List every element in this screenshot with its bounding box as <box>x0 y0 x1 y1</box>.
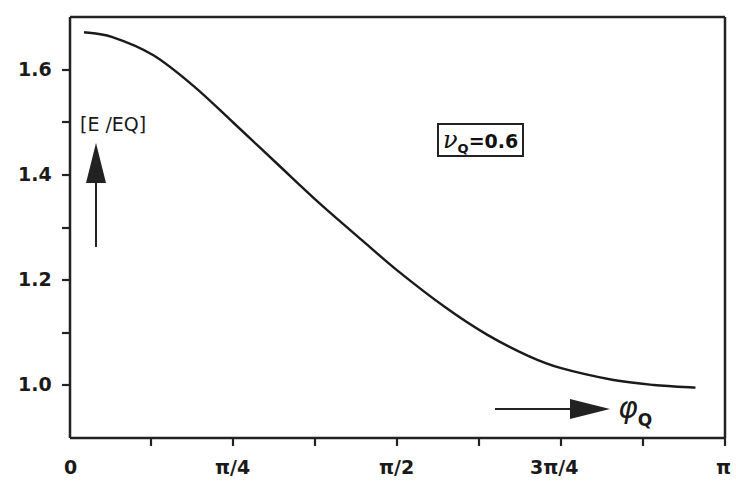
y-axis-label: [E /EQ] <box>80 113 146 135</box>
x-tick-label-pi: π <box>716 456 731 478</box>
y-tick-label-1.2: 1.2 <box>18 268 52 290</box>
x-tick-label-pi-4: π/4 <box>215 456 250 478</box>
parameter-annotation: νQ=0.6 <box>437 123 524 157</box>
data-curve <box>84 32 696 387</box>
x-tick-label-pi-2: π/2 <box>379 456 414 478</box>
nu-symbol: ν <box>443 126 458 154</box>
x-arrow-head-icon <box>570 399 610 419</box>
annotation-subscript: Q <box>458 141 469 156</box>
x-axis-subscript: Q <box>638 410 652 430</box>
y-tick-label-1.6: 1.6 <box>18 58 52 80</box>
phi-symbol: φ <box>618 390 638 425</box>
annotation-value: =0.6 <box>469 130 519 152</box>
x-axis-label: φQ <box>618 390 652 425</box>
x-tick-label-0: 0 <box>64 456 77 478</box>
x-tick-label-3pi-4: 3π/4 <box>530 456 578 478</box>
y-tick-label-1.0: 1.0 <box>18 373 52 395</box>
y-tick-label-1.4: 1.4 <box>18 163 52 185</box>
y-arrow-head-icon <box>86 143 106 183</box>
